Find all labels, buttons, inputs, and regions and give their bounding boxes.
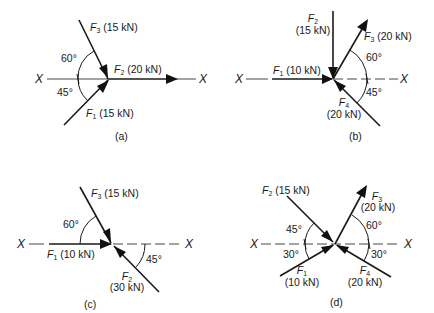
axis-label-left: X [34, 72, 44, 86]
force-label-f2: F2 (20 kN) [114, 63, 162, 76]
angle-label: 45° [366, 86, 382, 98]
arrowhead-icon [356, 185, 367, 198]
axis-label-right: X [403, 237, 413, 251]
angle-label: 60° [366, 51, 382, 63]
angle-arc-45 [305, 223, 314, 244]
force-f3-line [335, 190, 364, 244]
axis-label-right: X [399, 72, 409, 86]
panel-caption: (b) [349, 130, 362, 142]
force-label-f1: F1 (10 kN) [273, 64, 321, 77]
angle-arc-60 [78, 51, 94, 79]
panel-caption: (d) [330, 296, 343, 308]
axis-label-left: X [16, 237, 26, 251]
force-label-f3: F3 (15 kN) [91, 187, 139, 200]
angle-label: 30° [371, 248, 387, 260]
force-label-f1: F1 (15 kN) [86, 107, 134, 120]
angle-label: 45° [146, 253, 162, 265]
force-label-f3: F3 (20 kN) [364, 30, 412, 43]
angle-label: 45° [57, 86, 73, 98]
force-value-f1: (10 kN) [285, 276, 319, 288]
axis-label-left: X [249, 237, 259, 251]
panel-d: X X F2 (15 kN) 45° 30° F3 (20 kN) 60° 30… [249, 184, 413, 308]
axis-label-right: X [198, 72, 208, 86]
angle-label: 60° [366, 219, 382, 231]
force-value-f4: (20 kN) [327, 108, 361, 120]
angle-arc-45 [78, 79, 87, 100]
angle-label: 30° [283, 248, 299, 260]
force-diagrams-figure: X X 60° 45° F3 (15 kN) F2 (20 kN) F1 (15… [0, 0, 434, 313]
axis-label-left: X [234, 72, 244, 86]
arrowhead-icon [166, 74, 178, 84]
angle-arc-45 [136, 244, 145, 267]
force-label-f1: F1 (10 kN) [47, 248, 95, 261]
arrowhead-icon [99, 64, 108, 78]
panel-caption: (a) [115, 130, 128, 142]
force-value-f4: (20 kN) [348, 276, 382, 288]
force-label-f3: F3 (15 kN) [90, 21, 138, 34]
axis-label-right: X [184, 237, 194, 251]
force-value-f3: (20 kN) [361, 201, 395, 213]
force-label-f2: F2 (15 kN) [262, 184, 310, 197]
panel-a: X X 60° 45° F3 (15 kN) F2 (20 kN) F1 (15… [34, 20, 208, 142]
angle-label: 60° [63, 218, 79, 230]
force-value-f2: (15 kN) [296, 24, 330, 36]
arrowhead-icon [321, 245, 334, 254]
angle-label: 45° [286, 223, 302, 235]
arrowhead-icon [322, 74, 333, 84]
arrowhead-icon [97, 80, 109, 93]
angle-arc-60 [350, 50, 367, 79]
panel-b: X X F2 (15 kN) F3 (20 kN) 60° 45° F1 (10… [234, 11, 412, 142]
angle-arc-30-right [364, 244, 369, 261]
force-value-f2: (30 kN) [110, 281, 144, 293]
panel-c: X X 60° 45° F3 (15 kN) F1 (10 kN) F2 (30… [16, 187, 194, 310]
angle-arc-60 [80, 216, 96, 244]
arrowhead-icon [336, 245, 349, 254]
panel-caption: (c) [84, 298, 96, 310]
force-f3-line [333, 24, 365, 79]
angle-label: 60° [61, 52, 77, 64]
